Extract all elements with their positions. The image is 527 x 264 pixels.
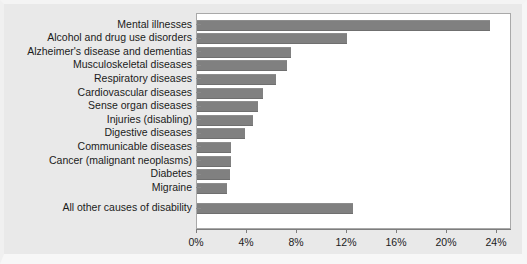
x-tick-label: 24% (485, 236, 506, 248)
x-tick-label: 8% (288, 236, 303, 248)
bar (197, 60, 287, 71)
x-tick-label: 0% (188, 236, 203, 248)
x-tick (346, 229, 347, 233)
x-tick-label: 16% (385, 236, 406, 248)
bar (197, 74, 276, 85)
category-label: Alzheimer's disease and dementias (6, 46, 192, 57)
category-label: Communicable diseases (6, 141, 192, 152)
category-tick (196, 106, 201, 107)
category-label: Diabetes (6, 168, 192, 179)
bar (197, 183, 227, 194)
x-axis-line (196, 229, 511, 230)
bar (197, 33, 347, 44)
x-tick (196, 229, 197, 233)
plot-area (196, 13, 511, 229)
category-label: Mental illnesses (6, 19, 192, 30)
category-label: Alcohol and drug use disorders (6, 32, 192, 43)
category-label: Digestive diseases (6, 127, 192, 138)
x-tick (396, 229, 397, 233)
category-tick (196, 65, 201, 66)
category-tick (196, 119, 201, 120)
x-tick (496, 229, 497, 233)
bar (197, 20, 490, 31)
category-label: Cardiovascular diseases (6, 87, 192, 98)
category-label: Migraine (6, 182, 192, 193)
bar (197, 115, 253, 126)
category-label: Respiratory diseases (6, 73, 192, 84)
category-label: Musculoskeletal diseases (6, 59, 192, 70)
category-label: Cancer (malignant neoplasms) (6, 155, 192, 166)
category-label: All other causes of disability (6, 202, 192, 213)
bar (197, 169, 230, 180)
chart-figure: Mental illnessesAlcohol and drug use dis… (0, 0, 527, 264)
bar (197, 156, 231, 167)
x-tick (246, 229, 247, 233)
category-tick (196, 146, 201, 147)
bar (197, 88, 263, 99)
bar (197, 47, 291, 58)
category-label: Injuries (disabling) (6, 114, 192, 125)
x-tick-label: 4% (238, 236, 253, 248)
category-tick (196, 133, 201, 134)
category-label: Sense organ diseases (6, 100, 192, 111)
category-tick (196, 160, 201, 161)
category-tick (196, 187, 201, 188)
x-tick (446, 229, 447, 233)
category-tick (196, 174, 201, 175)
bar (197, 142, 231, 153)
category-tick (196, 78, 201, 79)
x-tick (296, 229, 297, 233)
x-tick-label: 12% (335, 236, 356, 248)
bar (197, 203, 353, 214)
category-tick (196, 92, 201, 93)
category-tick (196, 24, 201, 25)
x-tick-label: 20% (435, 236, 456, 248)
category-tick (196, 51, 201, 52)
bar (197, 128, 245, 139)
category-axis-labels: Mental illnessesAlcohol and drug use dis… (6, 13, 192, 229)
category-tick (196, 38, 201, 39)
bar (197, 101, 258, 112)
category-tick (196, 208, 201, 209)
